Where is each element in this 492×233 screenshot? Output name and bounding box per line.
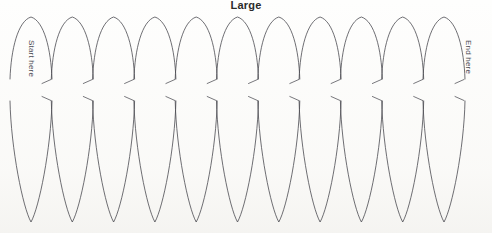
- waist-tick-upper: [372, 80, 381, 84]
- petal-upper-lobe: [423, 17, 465, 79]
- waist-tick-lower: [207, 97, 216, 101]
- petal-upper-lobe: [51, 17, 93, 79]
- waist-tick-lower: [42, 97, 51, 101]
- petal-upper-lobe: [340, 17, 382, 79]
- waist-tick-lower: [455, 97, 464, 101]
- waist-tick-upper: [290, 80, 299, 84]
- waist-tick-upper: [125, 80, 134, 84]
- petal-upper-lobe: [258, 17, 300, 79]
- petal-lower-lobe: [134, 101, 176, 222]
- waist-tick-lower: [372, 97, 381, 101]
- petal-upper-lobe: [93, 17, 135, 79]
- petal-pattern-diagram: [0, 0, 492, 233]
- petal-upper-lobe: [134, 17, 176, 79]
- end-here-label: End here: [463, 40, 473, 94]
- waist-tick-upper: [83, 80, 92, 84]
- pattern-sheet: Large Start here End here: [0, 0, 492, 233]
- waist-tick-upper: [207, 80, 216, 84]
- waist-tick-upper: [414, 80, 423, 84]
- petal-lower-lobe: [217, 101, 259, 222]
- waist-tick-lower: [249, 97, 258, 101]
- petal-upper-lobe: [382, 17, 424, 79]
- petal-lower-lobe: [258, 101, 300, 222]
- waist-tick-lower: [83, 97, 92, 101]
- petal-upper-lobe: [299, 17, 341, 79]
- waist-tick-lower: [414, 97, 423, 101]
- petal-lower-lobe: [93, 101, 135, 222]
- petal-lower-lobe: [175, 101, 217, 222]
- petal-lower-lobe: [382, 101, 424, 222]
- waist-tick-upper: [331, 80, 340, 84]
- start-here-label: Start here: [26, 40, 36, 94]
- petal-lower-lobe: [423, 101, 465, 222]
- waist-tick-upper: [42, 80, 51, 84]
- waist-tick-lower: [125, 97, 134, 101]
- petal-lower-lobe: [340, 101, 382, 222]
- petal-upper-lobe: [175, 17, 217, 79]
- waist-tick-lower: [166, 97, 175, 101]
- petal-lower-lobe: [10, 101, 52, 222]
- waist-tick-lower: [290, 97, 299, 101]
- waist-tick-upper: [166, 80, 175, 84]
- waist-tick-upper: [249, 80, 258, 84]
- waist-tick-lower: [331, 97, 340, 101]
- petal-lower-lobe: [299, 101, 341, 222]
- petal-lower-lobe: [51, 101, 93, 222]
- petal-upper-lobe: [217, 17, 259, 79]
